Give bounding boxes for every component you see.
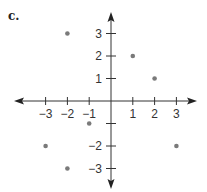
x-tick-label: 2: [151, 107, 158, 121]
x-tick-label: −3: [39, 107, 53, 121]
y-tick-label: 3: [95, 27, 102, 41]
x-tick-label: 3: [173, 107, 180, 121]
data-point: [65, 31, 70, 36]
scatter-plot: −3−2−1123321−2−3: [0, 0, 207, 192]
axes: [14, 12, 197, 189]
y-tick-label: −2: [88, 139, 102, 153]
data-point: [65, 166, 70, 171]
data-point: [152, 76, 157, 81]
y-tick-label: 2: [95, 49, 102, 63]
data-point: [87, 121, 92, 126]
x-tick-label: −2: [61, 107, 75, 121]
y-tick-label: −3: [88, 162, 102, 176]
y-tick-label: 1: [95, 72, 102, 86]
data-point: [174, 144, 179, 149]
data-point: [43, 144, 48, 149]
x-tick-label: −1: [82, 107, 96, 121]
x-tick-label: 1: [129, 107, 136, 121]
data-point: [131, 54, 136, 59]
